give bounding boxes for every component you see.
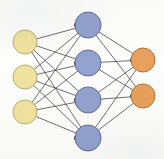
node-hidden-1 [75, 12, 101, 38]
node-input-2 [13, 65, 37, 89]
node-input-1 [13, 30, 37, 54]
input-layer [13, 30, 37, 124]
node-hidden-3 [75, 87, 101, 113]
neural-network-figure [0, 0, 164, 159]
node-output-2 [131, 84, 155, 108]
node-input-3 [13, 100, 37, 124]
node-hidden-2 [75, 50, 101, 76]
node-hidden-4 [75, 125, 101, 151]
neural-network-canvas [0, 0, 164, 159]
node-output-1 [131, 48, 155, 72]
